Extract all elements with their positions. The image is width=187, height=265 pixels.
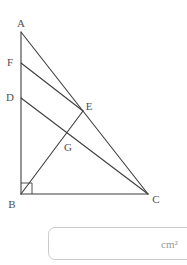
geometry-figure: AFDEGBC — [0, 0, 187, 265]
answer-input[interactable] — [55, 230, 159, 259]
vertex-label-C: C — [152, 193, 159, 205]
segment-FE — [21, 63, 83, 111]
vertex-label-G: G — [64, 141, 72, 153]
vertex-label-A: A — [17, 17, 25, 29]
vertex-label-E: E — [86, 100, 93, 112]
vertex-label-D: D — [6, 91, 14, 103]
vertex-label-F: F — [7, 56, 13, 68]
unit-label: cm² — [161, 238, 178, 250]
answer-box: cm² — [48, 227, 187, 260]
segment-BE — [21, 111, 83, 194]
vertex-label-B: B — [8, 198, 15, 210]
